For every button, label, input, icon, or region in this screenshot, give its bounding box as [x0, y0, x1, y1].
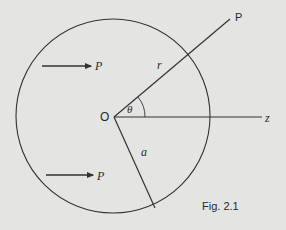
- figure-caption: Fig. 2.1: [202, 201, 239, 212]
- sphere-radius-label: a: [141, 146, 147, 158]
- point-label: P: [235, 12, 242, 23]
- angle-label: θ: [127, 104, 132, 115]
- origin-label: O: [100, 111, 109, 123]
- sphere-radius-line: [114, 117, 155, 208]
- diagram-drawing: [0, 0, 286, 230]
- z-axis-label: z: [265, 112, 270, 124]
- force-label-upper: P: [95, 60, 102, 72]
- sphere-circle: [16, 19, 210, 213]
- angle-arc: [138, 97, 145, 117]
- radius-label: r: [157, 59, 162, 71]
- force-label-lower: P: [97, 170, 104, 182]
- diagram-figure: O P z r a θ P P Fig. 2.1: [0, 0, 286, 230]
